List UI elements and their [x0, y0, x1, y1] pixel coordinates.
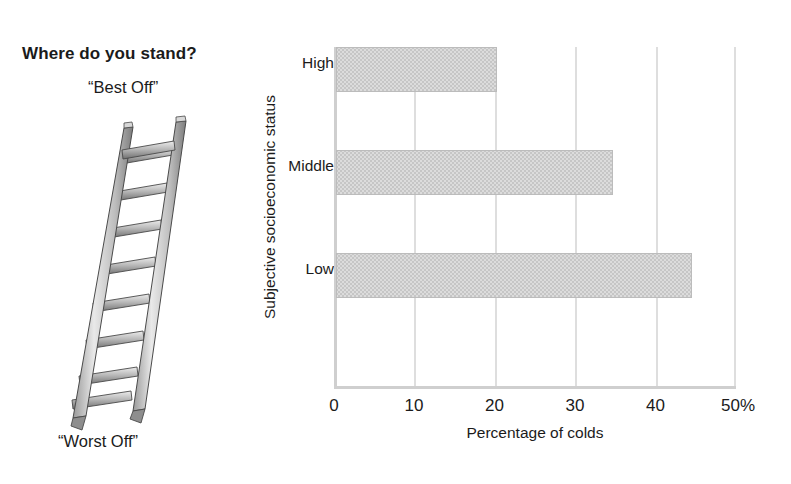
ladder-top-label: “Best Off”	[88, 78, 158, 97]
y-tick-middle: Middle	[214, 157, 334, 175]
x-tick-40: 40	[646, 396, 665, 416]
y-tick-low: Low	[214, 260, 334, 278]
x-axis-title: Percentage of colds	[334, 424, 736, 442]
bar-chart: Subjective socioeconomic status High Mid…	[210, 0, 791, 484]
x-tick-30: 30	[566, 396, 585, 416]
ladder-illustration	[40, 104, 230, 434]
x-tick-10: 10	[405, 396, 424, 416]
headline: Where do you stand?	[22, 44, 197, 64]
gridline-20	[495, 47, 497, 388]
ladder-bottom-label: “Worst Off”	[58, 432, 138, 451]
y-tick-high: High	[214, 54, 334, 72]
gridline-10	[414, 47, 416, 388]
bar-low	[336, 253, 692, 298]
y-axis-spine	[334, 47, 337, 388]
x-axis-tick-labels: 0 10 20 30 40 50%	[334, 392, 736, 422]
x-tick-0: 0	[329, 396, 338, 416]
gridline-40	[656, 47, 658, 388]
figure-root: Where do you stand? “Best Off”	[0, 0, 791, 484]
plot-area	[334, 47, 736, 388]
x-tick-50: 50%	[721, 396, 755, 416]
gridline-50	[734, 47, 736, 388]
ladder-icon	[40, 104, 230, 434]
x-tick-20: 20	[485, 396, 504, 416]
x-axis-line	[334, 386, 736, 389]
y-axis-tick-labels: High Middle Low	[204, 47, 334, 388]
gridline-30	[575, 47, 577, 388]
bar-middle	[336, 150, 613, 195]
bar-high	[336, 47, 497, 92]
